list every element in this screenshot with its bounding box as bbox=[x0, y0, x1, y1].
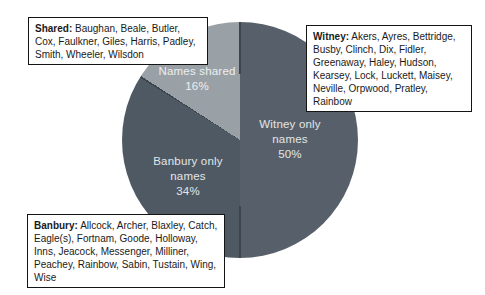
callout-shared-label: Shared: bbox=[35, 23, 72, 34]
callout-witney-names: Witney: Akers, Ayres, Bettridge, Busby, … bbox=[306, 25, 472, 112]
callout-witney-names-text: Akers, Ayres, Bettridge, Busby, Clinch, … bbox=[313, 31, 456, 107]
callout-banbury-label: Banbury: bbox=[34, 220, 78, 231]
callout-banbury-names: Banbury: Allcock, Archer, Blaxley, Catch… bbox=[27, 214, 225, 288]
callout-witney-label: Witney: bbox=[313, 31, 349, 42]
callout-shared-names: Shared: Baughan, Beale, Butler, Cox, Fau… bbox=[28, 17, 208, 65]
surname-pie-chart: Names shared 16% Witney only names 50% B… bbox=[0, 0, 485, 295]
